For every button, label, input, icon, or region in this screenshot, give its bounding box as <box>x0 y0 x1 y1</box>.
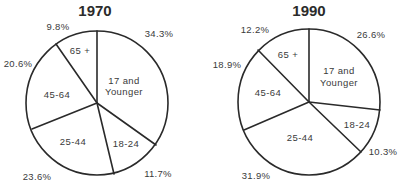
percent-18-24: 10.3% <box>369 146 398 157</box>
slice-label-18-24: 18-24 <box>113 138 139 149</box>
chart-title-1990: 1990 <box>292 2 325 19</box>
pie-chart-1990: 1990 17 and Younger 18-24 25-44 45-64 65… <box>213 2 398 181</box>
percent-17-younger: 34.3% <box>145 28 174 39</box>
slice-label-25-44: 25-44 <box>287 132 313 143</box>
percent-17-younger: 26.6% <box>357 29 386 40</box>
slice-label-65-plus: 65 + <box>70 45 90 56</box>
percent-45-64: 20.6% <box>4 58 33 69</box>
chart-title-1970: 1970 <box>78 2 111 19</box>
slice-label-18-24: 18-24 <box>344 119 370 130</box>
percent-25-44: 31.9% <box>242 170 271 181</box>
slice-label-65-plus: 65 + <box>278 49 298 60</box>
percent-45-64: 18.9% <box>213 59 242 70</box>
slice-label-45-64: 45-64 <box>255 87 281 98</box>
slice-label-17-younger-line1: 17 and <box>323 65 354 76</box>
pie-chart-1970: 1970 17 and Younger 18-24 25-44 45-64 65… <box>4 2 174 182</box>
percent-65-plus: 12.2% <box>241 24 270 35</box>
percent-18-24: 11.7% <box>144 168 172 179</box>
percent-25-44: 23.6% <box>23 171 52 182</box>
slice-label-25-44: 25-44 <box>60 136 86 147</box>
percent-65-plus: 9.8% <box>47 21 70 32</box>
slice-label-17-younger-line2: Younger <box>320 77 358 88</box>
slice-label-17-younger-line1: 17 and <box>108 75 139 86</box>
pie-charts-figure: 1970 17 and Younger 18-24 25-44 45-64 65… <box>0 0 408 190</box>
slice-label-17-younger-line2: Younger <box>105 86 143 97</box>
slice-label-45-64: 45-64 <box>44 89 70 100</box>
